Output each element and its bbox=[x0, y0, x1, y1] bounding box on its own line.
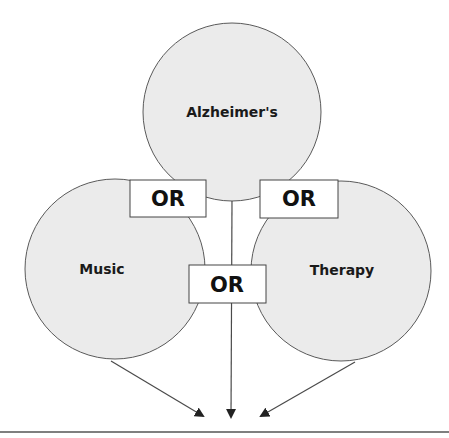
or-label-top-left: OR bbox=[151, 187, 185, 211]
label-alzheimers: Alzheimer's bbox=[186, 104, 278, 120]
arrow-right bbox=[261, 362, 355, 416]
venn-diagram: Alzheimer's Music Therapy OR OR OR bbox=[0, 0, 449, 438]
arrow-center bbox=[231, 201, 232, 417]
or-box-top-left: OR bbox=[130, 180, 206, 217]
arrow-left bbox=[111, 361, 203, 416]
label-music: Music bbox=[79, 261, 124, 277]
or-label-bottom: OR bbox=[210, 273, 244, 297]
label-therapy: Therapy bbox=[310, 262, 375, 278]
or-box-bottom: OR bbox=[189, 265, 266, 303]
or-box-top-right: OR bbox=[260, 180, 338, 218]
or-label-top-right: OR bbox=[282, 187, 316, 211]
